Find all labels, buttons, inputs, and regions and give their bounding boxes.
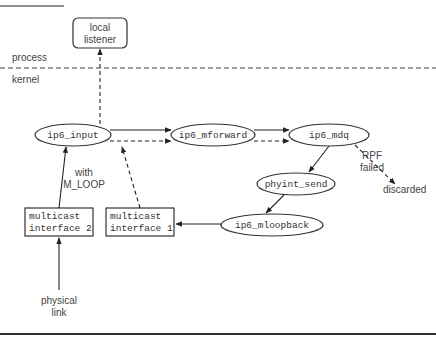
edge-interface-2-to-ip6-input	[59, 147, 66, 208]
multicast-interface-1-node: multicast interface 1	[106, 208, 174, 236]
kernel-label: kernel	[12, 74, 39, 85]
ip6-mforward-label: ip6_mforward	[179, 130, 247, 141]
ip6-mdq-node: ip6_mdq	[289, 124, 369, 146]
physical-link-line2: link	[51, 307, 67, 318]
phyint-send-node: phyint_send	[257, 173, 335, 195]
multicast-interface-1-line2: interface 1	[110, 223, 173, 234]
rpf-failed-line2: failed	[360, 162, 384, 173]
phyint-send-label: phyint_send	[265, 179, 328, 190]
local-listener-node: local listener	[73, 18, 127, 48]
edge-interface-1-to-ip6-input	[122, 147, 140, 208]
multicast-interface-2-node: multicast interface 2	[25, 208, 93, 236]
ip6-mloopback-node: ip6_mloopback	[221, 214, 323, 236]
multicast-interface-2-line2: interface 2	[29, 223, 92, 234]
edge-phyint-send-to-ip6-mloopback	[266, 195, 284, 213]
ip6-mforward-node: ip6_mforward	[171, 124, 255, 146]
local-listener-line2: listener	[84, 34, 117, 45]
multicast-forwarding-diagram: process kernel local listener ip6_input …	[0, 0, 436, 337]
process-label: process	[12, 52, 47, 63]
ip6-input-label: ip6_input	[47, 130, 98, 141]
multicast-interface-2-line1: multicast	[29, 211, 80, 222]
ip6-input-node: ip6_input	[35, 124, 111, 146]
physical-link-line1: physical	[41, 295, 77, 306]
ip6-mloopback-label: ip6_mloopback	[235, 220, 309, 231]
local-listener-line1: local	[90, 22, 111, 33]
multicast-interface-1-line1: multicast	[110, 211, 161, 222]
edge-ip6-mdq-to-phyint-send	[309, 146, 329, 172]
with-m-loop-line1: with	[74, 167, 93, 178]
ip6-mdq-label: ip6_mdq	[309, 130, 349, 141]
with-m-loop-line2: M_LOOP	[63, 179, 105, 190]
discarded-label: discarded	[383, 184, 426, 195]
